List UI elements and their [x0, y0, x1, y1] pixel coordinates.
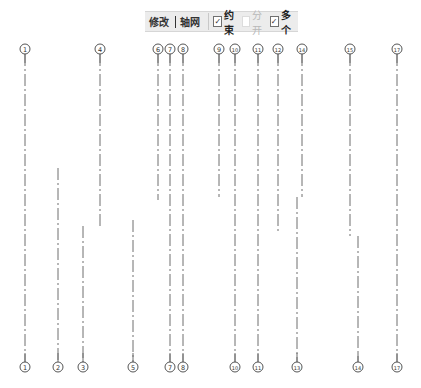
- grid-label: 7: [168, 46, 172, 54]
- grid-label: 17: [394, 47, 400, 53]
- grid-bubble[interactable]: 7: [165, 44, 175, 54]
- grid-bubble[interactable]: 2: [53, 362, 63, 372]
- grid-bubble[interactable]: 9: [214, 44, 224, 54]
- grid-label: 11: [255, 365, 261, 371]
- grid-label: 7: [168, 364, 172, 372]
- grid-bubble[interactable]: 8: [178, 362, 188, 372]
- grid-bubble[interactable]: 14: [353, 362, 363, 372]
- grid-canvas[interactable]: 1123456778891010111112131415141717: [0, 0, 421, 388]
- grid-label: 17: [394, 365, 400, 371]
- grid-label: 14: [355, 365, 361, 371]
- grid-label: 12: [275, 47, 281, 53]
- grid-label: 4: [98, 46, 102, 54]
- grid-label: 9: [217, 46, 221, 54]
- grid-bubble[interactable]: 1: [20, 44, 30, 54]
- grid-label: 3: [81, 364, 85, 372]
- grid-bubble[interactable]: 17: [392, 44, 402, 54]
- grid-label: 11: [255, 47, 261, 53]
- grid-bubble[interactable]: 5: [128, 362, 138, 372]
- grid-label: 15: [347, 47, 353, 53]
- grid-bubble[interactable]: 14: [297, 44, 307, 54]
- grid-bubble[interactable]: 13: [292, 362, 302, 372]
- grid-bubble[interactable]: 6: [153, 44, 163, 54]
- grid-label: 13: [294, 365, 300, 371]
- grid-label: 1: [23, 46, 27, 54]
- grid-label: 10: [232, 365, 238, 371]
- grid-bubble[interactable]: 11: [253, 362, 263, 372]
- grid-bubble[interactable]: 4: [95, 44, 105, 54]
- grid-bubble[interactable]: 10: [230, 362, 240, 372]
- grid-label: 10: [232, 47, 238, 53]
- grid-bubble[interactable]: 8: [178, 44, 188, 54]
- grid-label: 2: [56, 364, 60, 372]
- grid-bubble[interactable]: 1: [20, 362, 30, 372]
- grid-label: 1: [23, 364, 27, 372]
- grid-label: 5: [131, 364, 135, 372]
- grid-bubble[interactable]: 15: [345, 44, 355, 54]
- grid-label: 6: [156, 46, 160, 54]
- grid-label: 14: [299, 47, 305, 53]
- grid-bubble[interactable]: 10: [230, 44, 240, 54]
- grid-bubble[interactable]: 7: [165, 362, 175, 372]
- grid-label: 8: [181, 364, 185, 372]
- grid-label: 8: [181, 46, 185, 54]
- grid-bubble[interactable]: 17: [392, 362, 402, 372]
- grid-bubble[interactable]: 12: [273, 44, 283, 54]
- grid-bubble[interactable]: 11: [253, 44, 263, 54]
- grid-bubble[interactable]: 3: [78, 362, 88, 372]
